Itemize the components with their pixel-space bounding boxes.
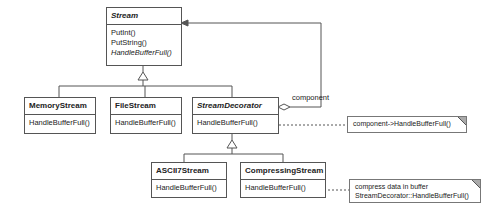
class-ascii7stream: ASCII7Stream HandleBufferFull() [151, 162, 227, 198]
note-text: component->HandleBufferFull() [353, 119, 461, 128]
operation-putstring: PutString() [111, 38, 177, 48]
class-name: ASCII7Stream [152, 163, 226, 180]
class-streamdecorator: StreamDecorator HandleBufferFull() [192, 97, 279, 134]
operation-handlebufferfull: HandleBufferFull() [111, 48, 177, 58]
class-name: MemoryStream [25, 98, 95, 115]
class-name: CompressingStream [241, 163, 325, 180]
class-name: Stream [107, 8, 181, 25]
note-text-line2: StreamDecorator::HandleBufferFull() [355, 191, 475, 200]
note-component-call: component->HandleBufferFull() [347, 116, 467, 133]
operation-handlebufferfull: HandleBufferFull() [197, 118, 274, 128]
note-compress-data: compress data in buffer StreamDecorator:… [349, 179, 481, 203]
operation-handlebufferfull: HandleBufferFull() [156, 183, 222, 193]
class-stream: Stream PutInt() PutString() HandleBuffer… [106, 7, 182, 66]
note-fold-icon [472, 180, 480, 188]
class-memorystream: MemoryStream HandleBufferFull() [24, 97, 96, 134]
class-name: StreamDecorator [193, 98, 278, 115]
class-compressingstream: CompressingStream HandleBufferFull() [240, 162, 326, 198]
operation-handlebufferfull: HandleBufferFull() [29, 118, 91, 128]
class-name: FileStream [111, 98, 181, 115]
operation-handlebufferfull: HandleBufferFull() [115, 118, 177, 128]
association-label-component: component [292, 93, 329, 102]
operation-handlebufferfull: HandleBufferFull() [245, 183, 321, 193]
class-filestream: FileStream HandleBufferFull() [110, 97, 182, 134]
operation-putint: PutInt() [111, 28, 177, 38]
note-text-line1: compress data in buffer [355, 182, 475, 191]
note-fold-icon [458, 117, 466, 125]
